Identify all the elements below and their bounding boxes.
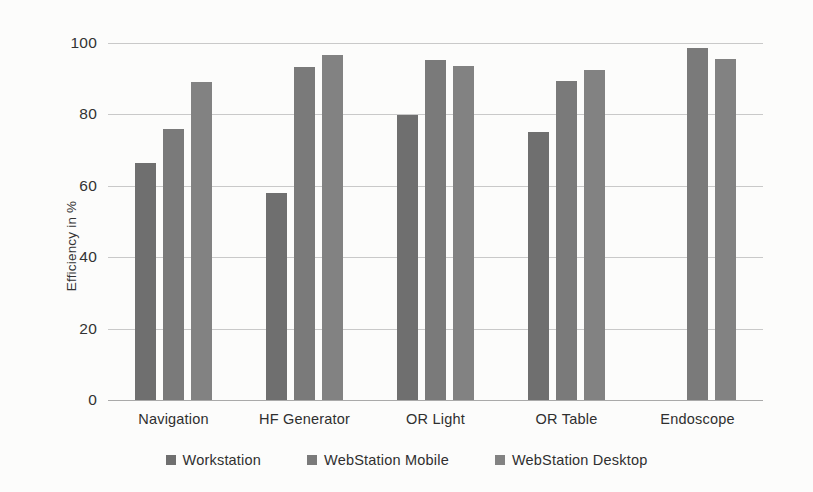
bar-group: [659, 43, 736, 400]
legend-item[interactable]: Workstation: [166, 452, 262, 468]
bar: [584, 70, 605, 400]
bar: [322, 55, 343, 400]
x-axis-tick-label: OR Light: [406, 411, 465, 427]
legend-swatch-icon: [495, 455, 505, 465]
y-axis-title: Efficiency in %: [64, 201, 79, 292]
y-axis-tick-label: 20: [79, 320, 97, 338]
x-axis-line: [108, 400, 763, 401]
y-axis-tick-label: 0: [88, 391, 97, 409]
bar-group: [135, 43, 212, 400]
legend-swatch-icon: [307, 455, 317, 465]
x-axis-tick-label: Navigation: [138, 411, 209, 427]
bar-group: [528, 43, 605, 400]
bar: [266, 193, 287, 400]
plot-area: 020406080100 NavigationHF GeneratorOR Li…: [108, 43, 763, 400]
bar: [556, 81, 577, 400]
chart-legend: WorkstationWebStation MobileWebStation D…: [0, 452, 813, 468]
x-axis-tick-label: HF Generator: [259, 411, 350, 427]
bar: [191, 82, 212, 400]
y-axis-tick-label: 100: [71, 34, 97, 52]
bar-group: [397, 43, 474, 400]
legend-item[interactable]: WebStation Mobile: [307, 452, 449, 468]
y-axis-tick-label: 60: [79, 177, 97, 195]
legend-swatch-icon: [166, 455, 176, 465]
bar: [294, 67, 315, 400]
legend-item[interactable]: WebStation Desktop: [495, 452, 648, 468]
legend-label: Workstation: [183, 452, 262, 468]
legend-label: WebStation Desktop: [512, 452, 648, 468]
bar: [135, 163, 156, 400]
x-axis-tick-label: Endoscope: [660, 411, 734, 427]
bar: [425, 60, 446, 400]
chart-figure: Efficiency in % 020406080100 NavigationH…: [0, 0, 813, 492]
bar: [163, 129, 184, 400]
bars-layer: [108, 43, 763, 400]
bar: [687, 48, 708, 400]
bar: [528, 132, 549, 400]
bar-group: [266, 43, 343, 400]
y-axis-tick-label: 80: [79, 105, 97, 123]
legend-label: WebStation Mobile: [324, 452, 449, 468]
bar: [397, 115, 418, 400]
x-axis-tick-label: OR Table: [536, 411, 598, 427]
bar: [715, 59, 736, 400]
bar: [453, 66, 474, 400]
y-axis-tick-label: 40: [79, 248, 97, 266]
